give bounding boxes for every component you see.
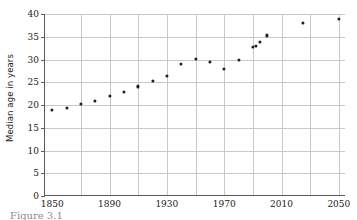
- y-tick-label: 0: [33, 191, 39, 201]
- gridline-vertical: [310, 14, 311, 195]
- y-tick-mark: [41, 173, 45, 174]
- y-axis-title: Median age in years: [0, 0, 20, 196]
- y-tick-label: 25: [28, 77, 39, 87]
- gridline-vertical: [339, 14, 340, 195]
- y-tick-mark: [41, 105, 45, 106]
- y-tick-label: 40: [28, 9, 39, 19]
- gridline-vertical: [167, 14, 168, 195]
- grid-layer: [45, 14, 345, 195]
- y-tick-mark: [41, 196, 45, 197]
- y-tick-label: 20: [28, 100, 39, 110]
- y-tick-mark: [41, 37, 45, 38]
- x-tick-label: 1890: [98, 199, 121, 209]
- y-tick-mark: [41, 60, 45, 61]
- x-tick-label: 2050: [327, 199, 350, 209]
- x-tick-label: 2010: [270, 199, 293, 209]
- median-age-figure: Median age in years 0510152025303540 185…: [0, 0, 357, 220]
- plot-area: 0510152025303540 18501890193019702010205…: [44, 14, 345, 196]
- gridline-vertical: [282, 14, 283, 195]
- x-tick-label: 1930: [155, 199, 178, 209]
- gridline-vertical: [224, 14, 225, 195]
- y-tick-mark: [41, 82, 45, 83]
- gridline-vertical: [110, 14, 111, 195]
- x-tick-label: 1850: [41, 199, 64, 209]
- y-tick-mark: [41, 14, 45, 15]
- y-axis-title-text: Median age in years: [5, 54, 15, 142]
- y-tick-label: 10: [28, 146, 39, 156]
- figure-caption: Figure 3.1: [10, 210, 63, 220]
- y-tick-label: 15: [28, 123, 39, 133]
- y-tick-mark: [41, 151, 45, 152]
- gridline-vertical: [196, 14, 197, 195]
- y-tick-label: 5: [33, 168, 39, 178]
- x-tick-label: 1970: [213, 199, 236, 209]
- y-tick-mark: [41, 128, 45, 129]
- y-tick-label: 35: [28, 32, 39, 42]
- gridline-vertical: [253, 14, 254, 195]
- gridline-vertical: [138, 14, 139, 195]
- y-tick-label: 30: [28, 55, 39, 65]
